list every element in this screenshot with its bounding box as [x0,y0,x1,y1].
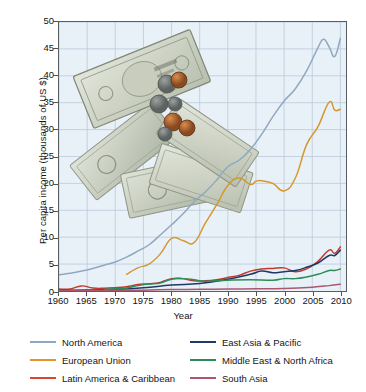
legend-item[interactable]: North America [30,337,190,348]
legend-item-label: Middle East & North Africa [222,355,333,366]
x-axis-title: Year [0,310,366,321]
legend-item-label: South Asia [222,373,267,384]
legend-item-label: East Asia & Pacific [222,337,301,348]
legend-item[interactable]: Latin America & Caribbean [30,373,190,384]
plot-area: North AmericaEuropean UnionLatin America… [58,21,347,292]
x-tick-mark [228,292,229,296]
legend-color-swatch [30,341,56,343]
y-tick-label: 25 [14,151,54,161]
series-line: European Union [127,101,341,274]
y-tick-label: 20 [14,178,54,188]
x-tick-mark [171,292,172,296]
legend-item-label: European Union [62,355,131,366]
x-tick-mark [313,292,314,296]
x-tick-mark [285,292,286,296]
y-tick-label: 50 [14,16,54,26]
legend-color-swatch [190,341,216,343]
legend-item[interactable]: Middle East & North Africa [190,355,350,366]
legend-color-swatch [190,359,216,361]
legend-color-swatch [30,359,56,361]
series-line: North America [59,38,340,275]
y-tick-label: 15 [14,205,54,215]
y-tick-label: 10 [14,232,54,242]
legend-item-label: North America [62,337,122,348]
legend-color-swatch [190,377,216,379]
legend-item[interactable]: South Asia [190,373,350,384]
legend-item[interactable]: East Asia & Pacific [190,337,350,348]
legend-item[interactable]: European Union [30,355,190,366]
y-tick-label: 40 [14,70,54,80]
y-tick-label: 30 [14,124,54,134]
x-tick-mark [200,292,201,296]
y-tick-label: 45 [14,43,54,53]
x-tick-mark [86,292,87,296]
chart-legend: North America East Asia & Pacific Europe… [30,333,350,387]
x-tick-label: 2010 [321,296,361,306]
x-tick-mark [256,292,257,296]
series-line: East Asia & Pacific [59,250,340,290]
x-tick-mark [58,292,59,296]
y-tick-label: 35 [14,97,54,107]
legend-color-swatch [30,377,56,379]
legend-item-label: Latin America & Caribbean [62,373,175,384]
y-tick-label: 5 [14,259,54,269]
series-lines: North AmericaEuropean UnionLatin America… [59,22,346,291]
x-tick-mark [115,292,116,296]
x-tick-mark [341,292,342,296]
chart-figure: Per capita income (thousands of US $) 05… [0,0,366,392]
x-tick-mark [143,292,144,296]
